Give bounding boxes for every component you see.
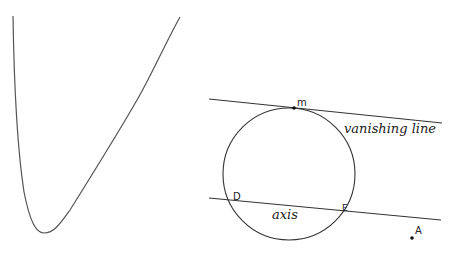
vanishing-line-label: vanishing line: [344, 121, 436, 136]
point-m: [292, 106, 296, 110]
diagram-canvas: m D E A vanishing line axis: [0, 0, 454, 253]
axis-label: axis: [272, 207, 298, 222]
label-d: D: [233, 191, 241, 202]
axis-line: [209, 198, 441, 220]
label-a: A: [415, 225, 422, 236]
convex-curve: [13, 16, 180, 233]
point-a: [410, 236, 414, 240]
label-e: E: [342, 203, 348, 213]
label-m: m: [297, 97, 307, 108]
